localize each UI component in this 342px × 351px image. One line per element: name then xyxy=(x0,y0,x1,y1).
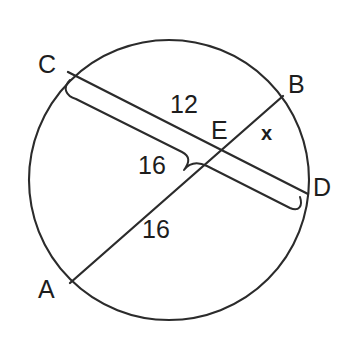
point-label-d: D xyxy=(313,175,331,200)
geometry-figure: C B E D A 12 16 16 x xyxy=(0,0,342,351)
measure-label-eb-x: x xyxy=(261,123,272,143)
circle-outline xyxy=(29,40,309,320)
measure-label-ae: 16 xyxy=(142,217,170,242)
measure-label-cd: 16 xyxy=(138,153,166,178)
measure-label-ce: 12 xyxy=(170,92,198,117)
point-label-c: C xyxy=(38,52,56,77)
point-label-a: A xyxy=(38,277,55,302)
point-label-b: B xyxy=(288,72,305,97)
chord-ab xyxy=(70,96,283,283)
point-label-e: E xyxy=(211,118,228,143)
